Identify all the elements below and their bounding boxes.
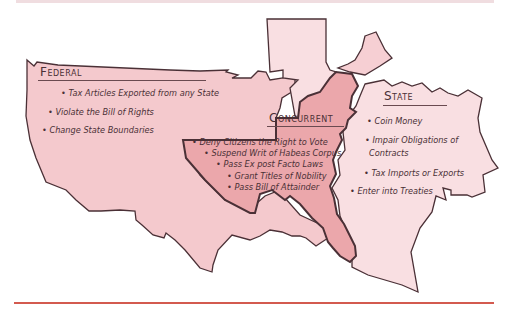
state-item-continuation: Contracts: [369, 148, 409, 158]
state-heading: State: [384, 89, 413, 103]
federal-item: Change State Boundaries: [42, 125, 154, 135]
concurrent-item: Pass Bill of Attainder: [227, 182, 319, 192]
concurrent-heading: Concurrent: [269, 111, 333, 125]
concurrent-item: Grant Titles of Nobility: [227, 171, 327, 181]
federal-item: Violate the Bill of Rights: [48, 107, 154, 117]
federal-heading: Federal: [40, 65, 82, 79]
bottom-divider: [14, 302, 494, 304]
state-item: Coin Money: [367, 116, 422, 126]
state-heading-underline: [383, 105, 447, 106]
federal-item: Tax Articles Exported from any State: [61, 88, 219, 98]
state-item: Enter into Treaties: [350, 186, 433, 196]
state-item: Impair Obligations of: [365, 135, 458, 145]
concurrent-heading-underline: [267, 126, 344, 127]
concurrent-item: Deny Citizens the Right to Vote: [192, 137, 328, 147]
concurrent-item: Suspend Writ of Habeas Corpus: [204, 148, 341, 158]
northeast-region: [338, 32, 392, 75]
concurrent-item: Pass Ex post Facto Laws: [216, 159, 323, 169]
state-item: Tax Imports or Exports: [364, 168, 464, 178]
federal-heading-underline: [38, 80, 206, 81]
